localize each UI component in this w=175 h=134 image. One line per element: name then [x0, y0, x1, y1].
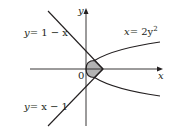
- label-parabola-exp: 2: [153, 25, 157, 33]
- label-line-top-rhs: = 1 − x: [30, 27, 69, 38]
- y-axis-arrow-icon: [84, 8, 89, 14]
- region-diagram: y x 0 y= 1 − x x= 2y2 y= x − 1: [0, 0, 175, 134]
- label-line-bottom: y= x − 1: [23, 101, 68, 112]
- parabola-upper-branch: [95, 42, 161, 61]
- origin-label: 0: [78, 70, 84, 81]
- y-axis-label: y: [77, 5, 84, 16]
- label-line-bottom-rhs: = x − 1: [30, 101, 68, 112]
- parabola-lower-branch: [95, 78, 161, 97]
- label-parabola: x= 2y2: [124, 25, 158, 37]
- label-parabola-mid: = 2y: [130, 26, 154, 37]
- x-axis-label: x: [158, 70, 164, 81]
- label-line-top: y= 1 − x: [23, 27, 68, 38]
